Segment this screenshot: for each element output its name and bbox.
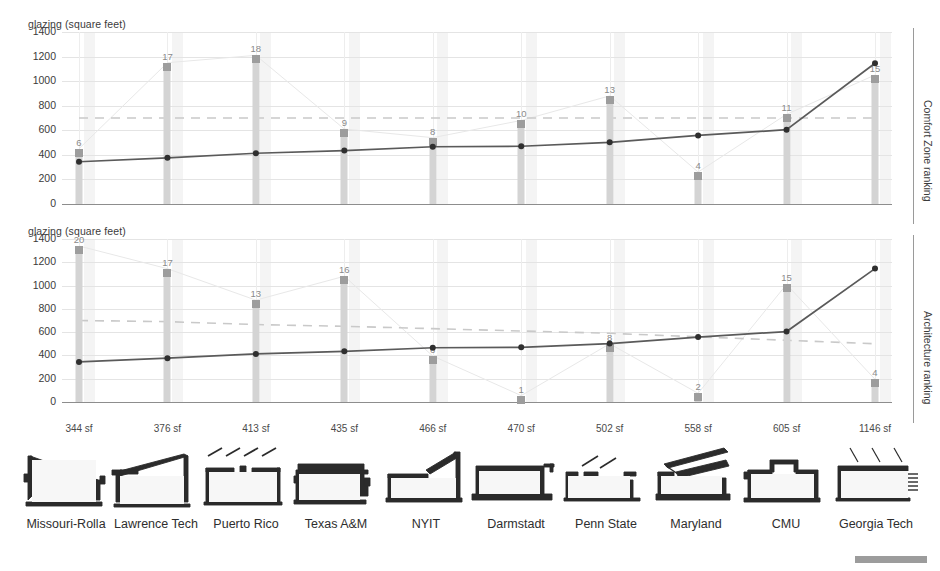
- building-section-label: CMU: [772, 518, 800, 531]
- x-axis-tick-label: 466 sf: [419, 424, 446, 434]
- scale-bar: [855, 556, 927, 563]
- building-section-label: NYIT: [412, 518, 440, 531]
- glazing-line-series: [62, 32, 892, 204]
- x-axis-tick-label: 376 sf: [154, 424, 181, 434]
- building-section-label: Georgia Tech: [839, 518, 913, 531]
- glazing-data-point: [695, 132, 701, 138]
- building-sections-row: Missouri-RollaLawrence TechPuerto RicoTe…: [20, 444, 920, 549]
- building-section-icon: [560, 444, 652, 516]
- building-section-icon: [830, 444, 922, 516]
- building-section-label: Texas A&M: [305, 518, 368, 531]
- building-section-cell: Penn State: [560, 444, 652, 549]
- building-section-cell: Maryland: [650, 444, 742, 549]
- glazing-data-point: [76, 359, 82, 365]
- plot-area-architecture: 0200400600800100012001400201713166182154: [62, 239, 892, 402]
- glazing-data-point: [76, 159, 82, 165]
- y-axis-tick-label: 1000: [33, 75, 56, 86]
- building-section-cell: Texas A&M: [290, 444, 382, 549]
- glazing-data-point: [518, 143, 524, 149]
- x-axis-tick-label: 558 sf: [684, 424, 711, 434]
- gridline: [62, 402, 892, 403]
- y-axis-tick-label: 400: [38, 349, 56, 360]
- y-axis-tick-label: 1000: [33, 280, 56, 291]
- building-section-cell: CMU: [740, 444, 832, 549]
- right-axis-rule-top: [913, 28, 914, 224]
- building-section-icon: [290, 444, 382, 516]
- building-section-icon: [20, 444, 112, 516]
- building-section-icon: [380, 444, 472, 516]
- building-section-label: Missouri-Rolla: [26, 518, 105, 531]
- building-section-cell: Lawrence Tech: [110, 444, 202, 549]
- y-axis-tick-label: 400: [38, 149, 56, 160]
- glazing-data-point: [607, 139, 613, 145]
- x-axis-tick-label: 435 sf: [331, 424, 358, 434]
- right-axis-rule-bottom: [913, 235, 914, 423]
- y-axis-tick-label: 1400: [33, 26, 56, 37]
- building-section-label: Maryland: [670, 518, 721, 531]
- x-axis-tick-labels: 344 sf376 sf413 sf435 sf466 sf470 sf502 …: [62, 424, 892, 438]
- right-axis-title-comfort-zone: Comfort Zone ranking: [922, 100, 934, 202]
- building-section-cell: Georgia Tech: [830, 444, 922, 549]
- building-section-label: Darmstadt: [487, 518, 545, 531]
- y-axis-tick-label: 800: [38, 303, 56, 314]
- glazing-data-point: [430, 345, 436, 351]
- glazing-data-point: [341, 148, 347, 154]
- glazing-data-point: [430, 144, 436, 150]
- glazing-data-point: [784, 329, 790, 335]
- chart-page: glazing (square feet) 020040060080010001…: [0, 0, 940, 571]
- y-axis-tick-label: 600: [38, 326, 56, 337]
- plot-area-comfort-zone: 0200400600800100012001400617189810134111…: [62, 32, 892, 204]
- y-axis-tick-label: 1200: [33, 256, 56, 267]
- glazing-data-point: [784, 127, 790, 133]
- glazing-data-point: [253, 351, 259, 357]
- x-axis-tick-label: 502 sf: [596, 424, 623, 434]
- y-axis-tick-label: 600: [38, 124, 56, 135]
- y-axis-tick-label: 0: [50, 396, 56, 407]
- x-axis-tick-label: 470 sf: [508, 424, 535, 434]
- building-section-icon: [650, 444, 742, 516]
- y-axis-tick-label: 800: [38, 100, 56, 111]
- chart-panel-comfort-zone: glazing (square feet) 020040060080010001…: [0, 18, 940, 223]
- glazing-data-point: [253, 150, 259, 156]
- building-section-cell: Puerto Rico: [200, 444, 292, 549]
- building-section-icon: [470, 444, 562, 516]
- building-section-cell: Missouri-Rolla: [20, 444, 112, 549]
- building-section-icon: [740, 444, 832, 516]
- building-section-cell: NYIT: [380, 444, 472, 549]
- glazing-data-point: [341, 348, 347, 354]
- building-section-label: Penn State: [575, 518, 637, 531]
- y-axis-tick-label: 200: [38, 173, 56, 184]
- building-section-icon: [200, 444, 292, 516]
- glazing-data-point: [872, 60, 878, 66]
- building-section-label: Lawrence Tech: [114, 518, 198, 531]
- building-section-icon: [110, 444, 202, 516]
- glazing-data-point: [695, 334, 701, 340]
- y-axis-tick-label: 1400: [33, 233, 56, 244]
- y-axis-tick-label: 1200: [33, 51, 56, 62]
- y-axis-tick-label: 0: [50, 198, 56, 209]
- gridline: [62, 204, 892, 205]
- x-axis-tick-label: 1146 sf: [859, 424, 891, 434]
- x-axis-tick-label: 413 sf: [242, 424, 269, 434]
- glazing-data-point: [607, 341, 613, 347]
- building-section-label: Puerto Rico: [213, 518, 278, 531]
- glazing-data-point: [164, 355, 170, 361]
- glazing-data-point: [518, 344, 524, 350]
- chart-panel-architecture: glazing (square feet) 020040060080010001…: [0, 225, 940, 421]
- building-section-cell: Darmstadt: [470, 444, 562, 549]
- glazing-line-series: [62, 239, 892, 402]
- x-axis-tick-label: 344 sf: [65, 424, 92, 434]
- y-axis-tick-label: 200: [38, 373, 56, 384]
- glazing-data-point: [164, 155, 170, 161]
- right-axis-title-architecture: Architecture ranking: [922, 311, 934, 404]
- glazing-data-point: [872, 266, 878, 272]
- x-axis-tick-label: 605 sf: [773, 424, 800, 434]
